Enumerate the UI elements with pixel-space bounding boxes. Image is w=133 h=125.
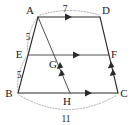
arrow-mark-BC — [85, 90, 92, 97]
measure-label-AD: 7 — [63, 4, 68, 14]
chevron-mark-FC-upper — [108, 62, 115, 69]
vertex-label-G: G — [49, 58, 57, 70]
geometry-figure-container: A D E F G B H C 7 5 5 11 — [0, 0, 133, 125]
vertex-label-C: C — [120, 87, 127, 99]
vertex-label-A: A — [26, 4, 34, 16]
measure-label-BC: 11 — [61, 114, 70, 124]
chevron-mark-FC-lower — [110, 69, 117, 76]
guide-arc-top — [40, 11, 99, 16]
vertex-label-E: E — [16, 48, 23, 60]
measure-label-AE: 5 — [26, 32, 31, 42]
arrow-mark-AD — [65, 14, 72, 21]
chevron-mark-GH-lower — [58, 70, 65, 77]
vertex-label-B: B — [5, 87, 12, 99]
arrow-mark-EF — [73, 52, 80, 59]
measure-label-EB: 5 — [17, 70, 22, 80]
vertex-label-H: H — [63, 95, 71, 107]
trapezoid-diagram: A D E F G B H C 7 5 5 11 — [0, 0, 133, 125]
vertex-label-F: F — [111, 48, 117, 60]
vertex-label-D: D — [102, 4, 110, 16]
